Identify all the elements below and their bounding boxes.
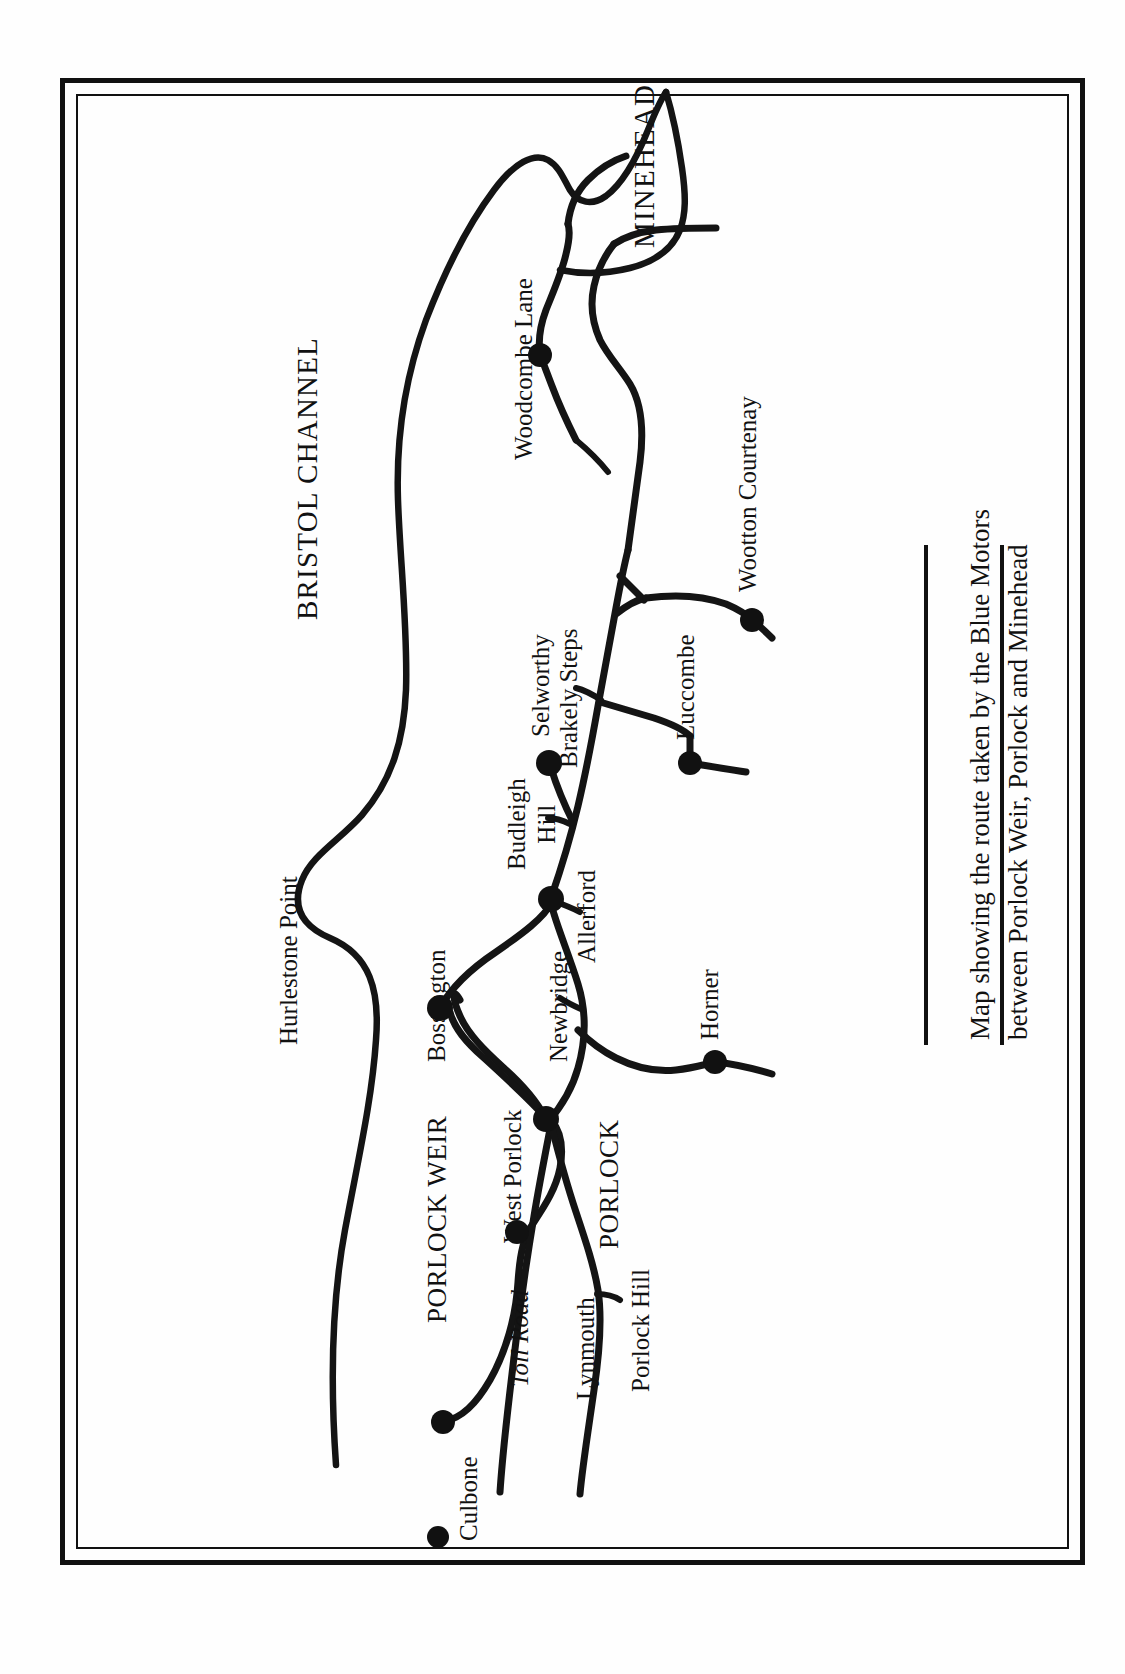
label-minehead: MINEHEAD: [629, 84, 659, 248]
caption-rule-top: [924, 545, 928, 1045]
label-porlock-hill: Porlock Hill: [628, 1269, 654, 1392]
caption-line-2: between Porlock Weir, Porlock and Minehe…: [998, 544, 1040, 1040]
label-luccombe: Luccombe: [673, 634, 699, 740]
label-toll-road: Toll Road: [507, 1290, 533, 1387]
label-brakely-steps: Brakely Steps: [556, 628, 582, 768]
map-page: BRISTOL CHANNEL Hurlestone Point MINEHEA…: [0, 0, 1125, 1674]
label-porlock-weir: PORLOCK WEIR: [423, 1116, 451, 1323]
label-allerford: Allerford: [574, 870, 600, 963]
label-culbone: Culbone: [456, 1456, 482, 1541]
label-lynmouth: Lynmouth: [573, 1297, 599, 1400]
label-horner: Horner: [697, 969, 723, 1040]
label-hurlestone-point: Hurlestone Point: [276, 876, 302, 1045]
label-wootton-courtenay: Wootton Courtenay: [735, 396, 761, 592]
label-porlock: PORLOCK: [595, 1119, 623, 1249]
label-selworthy: Selworthy: [528, 634, 554, 737]
label-budleigh-hill-line2: Hill: [532, 778, 562, 870]
label-budleigh-hill-line1: Budleigh: [502, 778, 532, 870]
caption-line-1: Map showing the route taken by the Blue …: [960, 509, 1002, 1040]
label-budleigh-hill: Budleigh Hill: [502, 778, 561, 870]
label-woodcombe-lane: Woodcombe Lane: [511, 278, 537, 460]
label-bristol-channel: BRISTOL CHANNEL: [292, 337, 322, 620]
label-bossington: Bossington: [424, 949, 450, 1062]
label-west-porlock: West Porlock: [500, 1110, 526, 1243]
label-newbridge: Newbridge: [546, 951, 572, 1062]
